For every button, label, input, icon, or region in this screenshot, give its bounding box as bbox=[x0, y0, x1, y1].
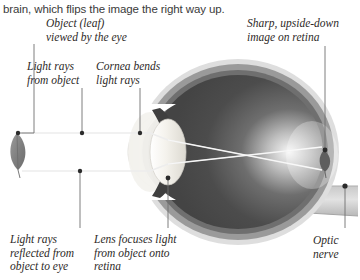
label-light-rays-from-object: Light rays from object bbox=[27, 60, 79, 87]
dot-sharp-image bbox=[323, 148, 328, 153]
dot-cornea bbox=[138, 131, 142, 135]
dot-object-leaf bbox=[16, 131, 20, 135]
eye-diagram-page: brain, which flips the image the right w… bbox=[0, 0, 360, 280]
label-sharp-upside-down-image: Sharp, upside-down image on retina bbox=[247, 17, 339, 44]
label-lens-focuses-light: Lens focuses light from object onto reti… bbox=[94, 233, 176, 274]
lens bbox=[150, 119, 186, 185]
label-cornea-bends-light-rays: Cornea bends light rays bbox=[96, 60, 160, 87]
label-object-leaf: Object (leaf) viewed by the eye bbox=[46, 17, 127, 44]
dot-lens bbox=[166, 176, 171, 181]
retina-focus-glow bbox=[286, 121, 338, 189]
body-text-line: brain, which flips the image the right w… bbox=[3, 3, 225, 15]
dot-light-rays-reflected bbox=[78, 169, 82, 173]
dot-optic-nerve bbox=[342, 183, 347, 188]
label-optic-nerve: Optic nerve bbox=[313, 234, 339, 261]
dot-light-rays-from-object bbox=[80, 131, 84, 135]
label-light-rays-reflected: Light rays reflected from object to eye bbox=[10, 233, 74, 274]
